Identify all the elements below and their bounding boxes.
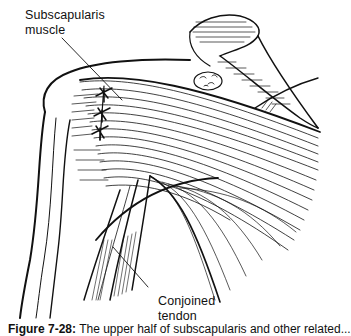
label-conjoined-tendon: Conjoined tendon — [158, 294, 215, 324]
subscapularis-fibers — [80, 81, 318, 250]
shoulder-illustration — [0, 0, 332, 322]
label-subscapularis-muscle: Subscapularis muscle — [25, 8, 105, 38]
label-line: muscle — [25, 23, 105, 38]
label-line: Conjoined — [158, 294, 215, 309]
figure-caption: Figure 7-28: The upper half of subscapul… — [8, 322, 351, 336]
conjoined-tendon — [84, 176, 150, 300]
caption-number: Figure 7-28: — [8, 322, 76, 336]
subscapularis-edge — [80, 78, 320, 240]
caption-text: The upper half of subscapularis and othe… — [79, 322, 351, 336]
bone-window — [194, 72, 222, 90]
label-line: Subscapularis — [25, 8, 105, 23]
